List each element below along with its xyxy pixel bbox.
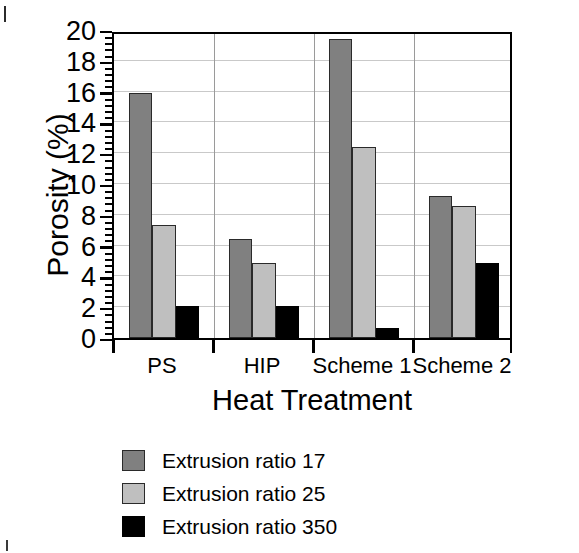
porosity-bar-chart-figure: Porosity (%) 02468101214161820 PSHIPSche…: [0, 0, 579, 553]
y-tick-minor: [105, 240, 112, 242]
legend-item: Extrusion ratio 350: [122, 510, 482, 543]
x-axis-title: Heat Treatment: [112, 384, 512, 417]
y-tick-label: 18: [66, 49, 96, 76]
bar: [329, 39, 353, 338]
y-tick-major: [100, 123, 112, 126]
y-tick-minor: [105, 265, 112, 267]
y-tick-minor: [105, 148, 112, 150]
y-tick-minor: [105, 271, 112, 273]
legend-swatch: [122, 483, 145, 504]
y-tick-label: 4: [81, 264, 96, 291]
y-tick-label: 2: [81, 295, 96, 322]
bar: [376, 328, 400, 338]
y-tick-minor: [105, 228, 112, 230]
y-tick-major: [100, 246, 112, 249]
y-tick-minor: [105, 56, 112, 58]
y-tick-minor: [105, 43, 112, 45]
y-tick-minor: [105, 142, 112, 144]
y-tick-label: 10: [66, 172, 96, 199]
y-tick-label: 0: [81, 326, 96, 353]
legend-swatch: [122, 516, 145, 537]
y-tick-minor: [105, 99, 112, 101]
x-tick-label: Scheme 1: [312, 354, 411, 378]
y-tick-major: [100, 62, 112, 65]
y-tick-minor: [105, 296, 112, 298]
y-tick-major: [100, 339, 112, 342]
y-tick-major: [100, 154, 112, 157]
y-tick-minor: [105, 333, 112, 335]
y-tick-minor: [105, 136, 112, 138]
y-tick-minor: [105, 321, 112, 323]
legend-item: Extrusion ratio 17: [122, 444, 482, 477]
x-tick: [312, 340, 315, 353]
y-tick-label: 14: [66, 110, 96, 137]
y-tick-minor: [105, 197, 112, 199]
y-tick-label: 12: [66, 141, 96, 168]
y-tick-minor: [105, 284, 112, 286]
y-tick-label: 20: [66, 18, 96, 45]
y-tick-major: [100, 308, 112, 311]
bar: [252, 263, 276, 338]
y-tick-minor: [105, 49, 112, 51]
legend: Extrusion ratio 17Extrusion ratio 25Extr…: [122, 444, 482, 543]
legend-swatch: [122, 450, 145, 471]
y-tick-minor: [105, 117, 112, 119]
x-tick-label: Scheme 2: [412, 354, 511, 378]
x-tick: [412, 340, 415, 353]
bars-layer: [114, 34, 510, 338]
y-tick-minor: [105, 259, 112, 261]
y-tick-minor: [105, 37, 112, 39]
y-tick-minor: [105, 80, 112, 82]
y-axis-ticks-and-labels: 02468101214161820: [0, 0, 112, 340]
x-tick-label: PS: [147, 354, 176, 378]
y-tick-minor: [105, 191, 112, 193]
y-tick-minor: [105, 234, 112, 236]
y-tick-minor: [105, 314, 112, 316]
y-tick-minor: [105, 68, 112, 70]
bar: [176, 306, 200, 338]
y-tick-minor: [105, 210, 112, 212]
x-tick-label: HIP: [244, 354, 281, 378]
x-tick: [510, 340, 513, 353]
bar: [229, 239, 253, 338]
y-tick-label: 8: [81, 203, 96, 230]
y-tick-minor: [105, 173, 112, 175]
legend-label: Extrusion ratio 25: [162, 482, 325, 505]
bar: [476, 263, 500, 338]
legend-item: Extrusion ratio 25: [122, 477, 482, 510]
bar: [129, 93, 153, 338]
x-tick: [112, 340, 115, 353]
bar: [429, 196, 453, 338]
y-tick-minor: [105, 179, 112, 181]
y-tick-minor: [105, 327, 112, 329]
y-tick-minor: [105, 74, 112, 76]
legend-label: Extrusion ratio 17: [162, 449, 325, 472]
y-tick-major: [100, 31, 112, 34]
y-tick-major: [100, 216, 112, 219]
y-tick-minor: [105, 160, 112, 162]
y-tick-major: [100, 92, 112, 95]
y-tick-label: 6: [81, 234, 96, 261]
legend-label: Extrusion ratio 350: [162, 515, 337, 538]
y-tick-minor: [105, 253, 112, 255]
y-tick-label: 16: [66, 80, 96, 107]
y-tick-minor: [105, 203, 112, 205]
bar: [452, 206, 476, 338]
y-tick-minor: [105, 111, 112, 113]
y-tick-major: [100, 277, 112, 280]
bar: [276, 306, 300, 338]
y-tick-major: [100, 185, 112, 188]
y-tick-minor: [105, 167, 112, 169]
x-tick: [212, 340, 215, 353]
y-tick-minor: [105, 86, 112, 88]
bar: [152, 225, 176, 338]
bar: [352, 147, 376, 338]
y-tick-minor: [105, 302, 112, 304]
y-tick-minor: [105, 222, 112, 224]
y-tick-minor: [105, 290, 112, 292]
plot-area: [112, 32, 512, 340]
y-tick-minor: [105, 105, 112, 107]
y-tick-minor: [105, 130, 112, 132]
